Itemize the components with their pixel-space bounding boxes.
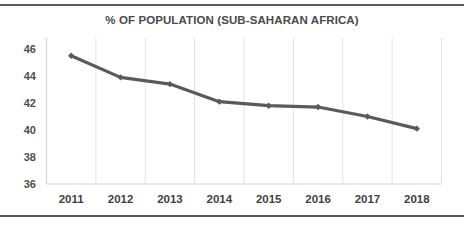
y-tick-label: 46 [8, 43, 36, 55]
x-tick-label: 2014 [195, 193, 243, 205]
chart-figure: % OF POPULATION (SUB-SAHARAN AFRICA) 363… [0, 0, 464, 225]
y-tick-label: 44 [8, 70, 36, 82]
data-point-marker [265, 103, 271, 109]
data-point-marker [364, 113, 370, 119]
x-tick-label: 2012 [97, 193, 145, 205]
x-tick-label: 2016 [294, 193, 342, 205]
data-point-marker [414, 125, 420, 131]
plot-svg [0, 0, 464, 225]
data-point-marker [315, 104, 321, 110]
plot-area: 363840424446 201120122013201420152016201… [0, 0, 464, 225]
x-tick-label: 2015 [245, 193, 293, 205]
gridlines [96, 38, 442, 184]
y-tick-label: 42 [8, 97, 36, 109]
x-tick-label: 2013 [146, 193, 194, 205]
y-tick-label: 40 [8, 124, 36, 136]
y-tick-label: 38 [8, 151, 36, 163]
x-tick-label: 2017 [343, 193, 391, 205]
x-tick-label: 2018 [393, 193, 441, 205]
x-tick-label: 2011 [47, 193, 95, 205]
y-tick-label: 36 [8, 178, 36, 190]
